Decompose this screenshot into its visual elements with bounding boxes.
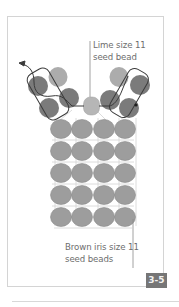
brown-iris-beads	[51, 120, 136, 227]
lime-bead-label: Lime size 11 seed bead	[93, 40, 146, 63]
bottom-divider	[12, 301, 179, 302]
brown-label-line2: seed beads	[65, 254, 139, 266]
thread-end-dot	[134, 103, 137, 106]
brown-bead-label: Brown iris size 11 seed beads	[65, 242, 139, 265]
lime-label-line1: Lime size 11	[93, 40, 146, 52]
lime-label-line2: seed bead	[93, 52, 146, 64]
lime-bead	[84, 97, 100, 115]
brown-label-line1: Brown iris size 11	[65, 242, 139, 254]
figure-number-badge: 3-5	[146, 273, 167, 288]
